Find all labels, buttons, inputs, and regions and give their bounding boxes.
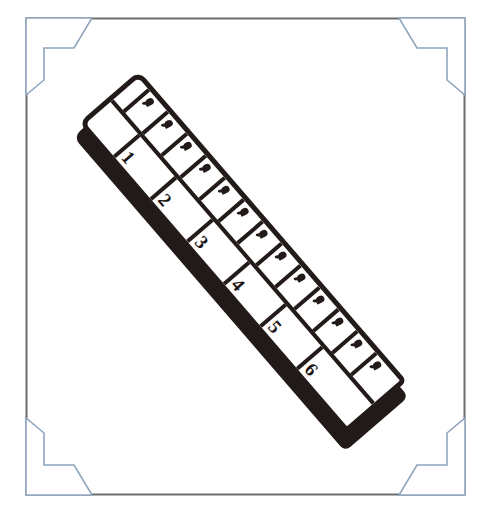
tick-mark-icon [162, 119, 173, 129]
tick-mark-icon [181, 141, 192, 151]
ruler-body: 123456 [78, 71, 406, 434]
tick-mark-icon [200, 163, 211, 173]
ruler-layer: 123456 [0, 0, 485, 514]
tick-mark-icon [371, 360, 382, 370]
ruler-major-scale: 123456 [85, 99, 374, 426]
ruler-minor-scale [113, 78, 399, 402]
illustration-canvas: 123456 [0, 0, 485, 514]
ruler: 123456 [73, 71, 411, 444]
tick-mark-icon [295, 272, 306, 282]
tick-mark-icon [257, 229, 268, 239]
tick-mark-icon [276, 250, 287, 260]
tick-mark-icon [352, 338, 363, 348]
tick-mark-icon [143, 97, 154, 107]
tick-mark-icon [333, 316, 344, 326]
tick-mark-icon [219, 185, 230, 195]
tick-mark-icon [314, 294, 325, 304]
tick-mark-icon [238, 207, 249, 217]
